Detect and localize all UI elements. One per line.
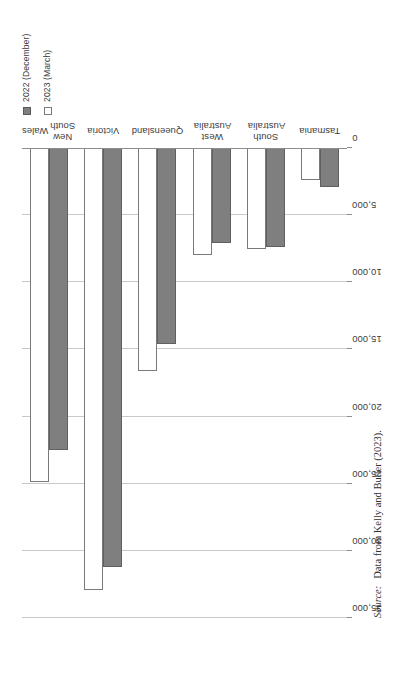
bar-group — [22, 148, 76, 618]
category-label-line: Tasmania — [299, 126, 340, 137]
bar-2022 — [266, 148, 285, 247]
legend-entry-2022: 2022 (December) — [22, 5, 31, 115]
legend-label-2022: 2022 (December) — [22, 34, 31, 102]
value-axis-tick-label: 35,000 — [337, 608, 367, 618]
legend-entry-2023: 2023 (March) — [43, 5, 52, 115]
bar-group — [185, 148, 239, 618]
category-label: West Australia — [185, 118, 239, 144]
category-label: Queensland — [130, 118, 184, 144]
category-label-line: West Australia — [185, 120, 239, 141]
value-axis-tick-label-text: 20,000 — [352, 402, 382, 412]
bar-group — [76, 148, 130, 618]
chart-page: 2022 (December) 2023 (March) 05,00010,00… — [0, 0, 399, 675]
bar-group — [130, 148, 184, 618]
category-label-line: Victoria — [87, 126, 119, 137]
value-axis-tick-label-text: 5,000 — [352, 200, 376, 210]
bar-2022 — [212, 148, 231, 243]
bar-2022 — [157, 148, 176, 344]
legend-swatch-hollow-square-icon — [44, 107, 52, 115]
value-axis-tick-label-text: 25,000 — [352, 469, 382, 479]
category-label-line: Wales — [22, 126, 48, 137]
value-axis-tick-label-text: 0 — [352, 133, 357, 143]
category-label: New SouthWales — [22, 118, 76, 144]
value-axis-tick-label-text: 35,000 — [352, 603, 382, 613]
rotated-chart-stage: 2022 (December) 2023 (March) 05,00010,00… — [0, 0, 399, 675]
bar-2023 — [301, 148, 320, 180]
legend-swatch-filled-square-icon — [23, 107, 31, 115]
bar-2022 — [103, 148, 122, 567]
value-axis-tick-label-text: 10,000 — [352, 267, 382, 277]
plot-area — [22, 148, 347, 618]
bar-2023 — [138, 148, 157, 371]
value-axis-tick-label: 25,000 — [337, 474, 367, 484]
bar-group — [239, 148, 293, 618]
value-axis-baseline — [22, 148, 347, 149]
value-axis-tick-label: 0 — [349, 138, 354, 148]
bar-2023 — [30, 148, 49, 482]
value-axis-tick-label: 20,000 — [337, 407, 367, 417]
value-axis-tick-label: 30,000 — [337, 541, 367, 551]
value-axis-tick-label: 15,000 — [337, 339, 367, 349]
bar-2022 — [49, 148, 68, 450]
value-axis-tick-label-text: 15,000 — [352, 334, 382, 344]
bar-2022 — [320, 148, 339, 187]
category-axis-labels: New SouthWalesVictoriaQueenslandWest Aus… — [22, 118, 347, 144]
bar-2023 — [84, 148, 103, 590]
bar-chart-figure: 2022 (December) 2023 (March) 05,00010,00… — [0, 0, 399, 675]
value-axis-tick-label-text: 30,000 — [352, 536, 382, 546]
value-axis-labels: 05,00010,00015,00020,00025,00030,00035,0… — [352, 148, 396, 618]
category-label-line: New South — [48, 120, 76, 141]
bar-2023 — [193, 148, 212, 255]
category-label-line: Queensland — [132, 126, 184, 137]
category-label: Tasmania — [293, 118, 347, 144]
category-label: South Australia — [239, 118, 293, 144]
category-label: Victoria — [76, 118, 130, 144]
value-axis-tick-label: 10,000 — [337, 272, 367, 282]
legend-label-2023: 2023 (March) — [43, 50, 52, 102]
category-label-line: South Australia — [239, 120, 293, 141]
value-axis-tick-label: 5,000 — [340, 205, 364, 215]
bar-2023 — [247, 148, 266, 249]
chart-legend: 2022 (December) 2023 (March) — [22, 5, 64, 115]
